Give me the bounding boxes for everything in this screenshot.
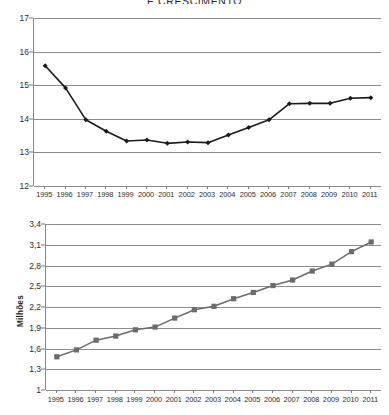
x-tick-mark: [44, 186, 45, 189]
x-tick-mark: [349, 186, 350, 189]
x-axis-tick-label: 2005: [244, 395, 260, 404]
x-tick-mark: [65, 186, 66, 189]
x-axis-tick-label: 2010: [343, 395, 359, 404]
x-axis-tick-label: 1999: [126, 395, 142, 404]
data-point-marker: [349, 249, 354, 254]
x-axis-tick-label: 1999: [118, 190, 134, 199]
x-tick-mark: [309, 186, 310, 189]
data-point-marker: [185, 139, 190, 144]
x-tick-mark: [329, 186, 330, 189]
series-polyline: [45, 66, 371, 144]
x-tick-mark: [370, 186, 371, 189]
x-axis-tick-label: 2005: [240, 190, 256, 199]
x-axis-tick-label: 1996: [57, 190, 73, 199]
data-point-marker: [251, 290, 256, 295]
x-axis-tick-label: 2007: [284, 395, 300, 404]
y-tick-mark: [41, 307, 45, 308]
data-point-marker: [348, 96, 353, 101]
x-axis-tick-label: 2006: [260, 190, 276, 199]
y-tick-mark: [41, 265, 45, 266]
data-point-marker: [329, 262, 334, 267]
x-axis-tick-label: 2002: [179, 190, 195, 199]
data-point-marker: [231, 296, 236, 301]
x-axis-tick-label: 2009: [323, 395, 339, 404]
x-tick-mark: [268, 186, 269, 189]
data-point-marker: [74, 347, 79, 352]
data-point-marker: [307, 101, 312, 106]
data-point-marker: [172, 315, 177, 320]
y-tick-mark: [29, 118, 33, 119]
y-axis-tick-label: 17: [5, 13, 29, 23]
data-point-marker: [226, 132, 231, 137]
y-axis-tick-label: 15: [5, 80, 29, 90]
y-tick-mark: [41, 286, 45, 287]
y-tick-mark: [41, 390, 45, 391]
x-tick-mark: [311, 390, 312, 393]
y-axis-tick-label: 12: [5, 181, 29, 191]
y-tick-mark: [41, 369, 45, 370]
data-point-marker: [310, 268, 315, 273]
x-axis-tick-label: 2004: [225, 395, 241, 404]
x-tick-mark: [193, 390, 194, 393]
data-point-marker: [152, 324, 157, 329]
x-axis-tick-label: 2000: [146, 395, 162, 404]
data-point-marker: [369, 239, 374, 244]
data-point-marker: [124, 138, 129, 143]
data-point-marker: [246, 125, 251, 130]
data-point-marker: [113, 333, 118, 338]
x-tick-mark: [213, 390, 214, 393]
y-tick-mark: [41, 348, 45, 349]
x-tick-mark: [187, 186, 188, 189]
x-tick-mark: [134, 390, 135, 393]
x-tick-mark: [85, 186, 86, 189]
x-axis-tick-label: 1995: [36, 190, 52, 199]
x-axis-tick-label: 2006: [264, 395, 280, 404]
y-axis-tick-label: 1,6: [15, 344, 41, 354]
y-axis-tick-label: 2,2: [15, 302, 41, 312]
chart-title: E CRESCIMENTO: [0, 0, 389, 4]
x-tick-mark: [252, 390, 253, 393]
x-tick-mark: [207, 186, 208, 189]
series-line-bottom: [46, 224, 382, 390]
x-tick-mark: [233, 390, 234, 393]
x-tick-mark: [75, 390, 76, 393]
x-axis-tick-label: 2010: [341, 190, 357, 199]
y-tick-mark: [29, 152, 33, 153]
y-tick-mark: [29, 51, 33, 52]
data-point-marker: [54, 354, 59, 359]
data-point-marker: [94, 338, 99, 343]
y-tick-mark: [29, 186, 33, 187]
x-axis-tick-label: 2007: [280, 190, 296, 199]
x-tick-mark: [154, 390, 155, 393]
y-tick-mark: [41, 224, 45, 225]
data-point-marker: [270, 283, 275, 288]
data-point-marker: [206, 140, 211, 145]
y-axis-tick-label: 16: [5, 47, 29, 57]
x-tick-mark: [146, 186, 147, 189]
y-axis-tick-label: 3,1: [15, 240, 41, 250]
y-axis-tick-label: 3,4: [15, 219, 41, 229]
x-axis-tick-label: 1995: [48, 395, 64, 404]
x-axis-tick-label: 2003: [199, 190, 215, 199]
series-line-top: [34, 18, 382, 186]
x-axis-tick-label: 2008: [301, 190, 317, 199]
y-tick-mark: [29, 18, 33, 19]
y-tick-mark: [29, 85, 33, 86]
y-axis-tick-label: 1,9: [15, 323, 41, 333]
y-axis-tick-label: 1,3: [15, 364, 41, 374]
x-tick-mark: [166, 186, 167, 189]
x-tick-mark: [331, 390, 332, 393]
x-tick-mark: [292, 390, 293, 393]
x-tick-mark: [248, 186, 249, 189]
x-axis-tick-label: 1997: [77, 190, 93, 199]
plot-area-bottom: [45, 224, 381, 390]
y-axis-tick-label: 2,5: [15, 281, 41, 291]
x-axis-tick-label: 2001: [158, 190, 174, 199]
x-tick-mark: [272, 390, 273, 393]
x-axis-tick-label: 2002: [185, 395, 201, 404]
y-axis-tick-label: 2,8: [15, 261, 41, 271]
data-point-marker: [144, 137, 149, 142]
x-tick-mark: [227, 186, 228, 189]
x-axis-tick-label: 2003: [205, 395, 221, 404]
y-axis-tick-label: 1: [15, 385, 41, 395]
